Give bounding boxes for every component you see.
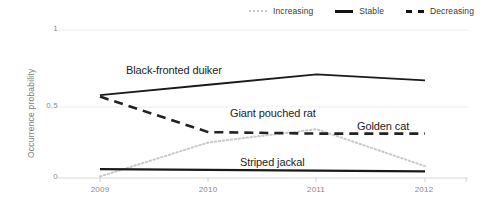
x-axis-ticks [100,178,466,182]
series-line-striped-jackal [100,169,425,171]
series-label-giant-pouched-rat: Giant pouched rat [228,107,318,119]
plot-area [0,0,490,203]
series-label-striped-jackal: Striped jackal [238,156,307,168]
series-label-golden-cat: Golden cat [355,120,411,132]
series-line-black-fronted-duiker [100,74,425,95]
occurrence-probability-line-chart: Increasing Stable Decreasing Occurrence … [0,0,490,203]
series-label-black-fronted-duiker: Black-fronted duiker [124,64,224,76]
